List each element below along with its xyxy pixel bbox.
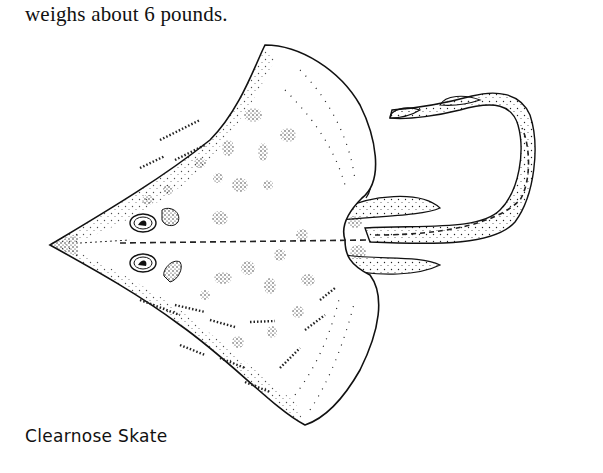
tail <box>365 93 535 243</box>
body-text: weighs about 6 pounds. <box>25 2 228 27</box>
disc-body <box>50 45 379 425</box>
figure-caption: Clearnose Skate <box>25 426 167 446</box>
skate-illustration <box>40 30 600 430</box>
